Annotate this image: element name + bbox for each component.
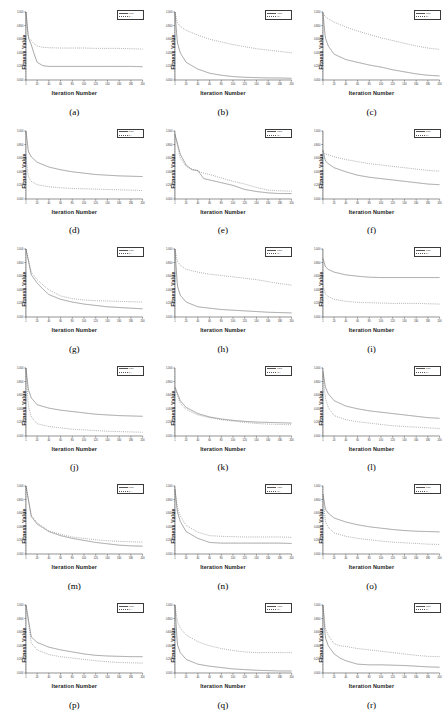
- legend: PSOGA: [414, 129, 441, 139]
- svg-text:60: 60: [356, 675, 359, 679]
- legend: PSOGA: [117, 366, 144, 376]
- x-axis-label: Iteration Number: [0, 446, 149, 452]
- svg-text:20: 20: [36, 437, 39, 441]
- legend-swatch-dotted-icon: [416, 135, 425, 136]
- subplot-caption: (g): [0, 344, 149, 354]
- svg-text:120: 120: [242, 319, 247, 323]
- svg-text:1.000: 1.000: [17, 603, 24, 607]
- svg-text:40: 40: [196, 319, 199, 323]
- plot-area: 0.0000.2000.4000.6000.8001.0001204060801…: [297, 362, 446, 454]
- legend-label: PSO: [277, 367, 282, 370]
- svg-text:1: 1: [25, 200, 27, 204]
- subplot-caption: (o): [297, 581, 446, 591]
- subplot-l: 0.0000.2000.4000.6000.8001.0001204060801…: [297, 356, 446, 475]
- svg-text:60: 60: [208, 82, 211, 86]
- x-axis-label: Iteration Number: [149, 209, 298, 215]
- series-line-PSO: [175, 387, 292, 423]
- svg-text:40: 40: [345, 319, 348, 323]
- plot-area: 0.0000.2000.4000.6000.8001.0001204060801…: [149, 362, 298, 454]
- svg-text:180: 180: [129, 82, 134, 86]
- subplot-k: 0.0000.2000.4000.6000.8001.0001204060801…: [149, 356, 298, 475]
- svg-text:180: 180: [129, 200, 134, 204]
- x-axis-label: Iteration Number: [297, 564, 446, 570]
- svg-text:1.000: 1.000: [166, 247, 173, 251]
- svg-text:180: 180: [426, 675, 431, 679]
- y-axis-label: Fitness Value: [21, 627, 27, 662]
- legend: PSOGA: [265, 484, 292, 494]
- svg-text:200: 200: [140, 200, 145, 204]
- subplot-caption: (n): [149, 581, 298, 591]
- svg-text:0.000: 0.000: [17, 78, 24, 82]
- svg-text:80: 80: [71, 675, 74, 679]
- subplot-c: 0.0000.2000.4000.6000.8001.0001204060801…: [297, 0, 446, 119]
- subplot-n: 0.0000.2000.4000.6000.8001.0001204060801…: [149, 474, 298, 593]
- svg-text:40: 40: [196, 675, 199, 679]
- svg-text:160: 160: [414, 675, 419, 679]
- legend-item-GA: GA: [416, 134, 439, 137]
- svg-text:0.000: 0.000: [166, 78, 173, 82]
- svg-text:140: 140: [105, 437, 110, 441]
- svg-text:140: 140: [402, 556, 407, 560]
- legend-label: PSO: [277, 12, 282, 15]
- svg-text:80: 80: [368, 556, 371, 560]
- svg-text:40: 40: [47, 200, 50, 204]
- legend-label: PSO: [129, 367, 134, 370]
- svg-text:200: 200: [438, 319, 443, 323]
- svg-text:0.000: 0.000: [314, 78, 321, 82]
- svg-text:200: 200: [438, 82, 443, 86]
- plot-area: 0.0000.2000.4000.6000.8001.0001204060801…: [0, 6, 149, 98]
- svg-text:0.800: 0.800: [17, 617, 24, 621]
- svg-text:80: 80: [368, 437, 371, 441]
- svg-text:0.000: 0.000: [17, 671, 24, 675]
- svg-text:0.800: 0.800: [166, 379, 173, 383]
- series-line-PSO: [26, 12, 143, 67]
- plot-area: 0.0000.2000.4000.6000.8001.0001204060801…: [0, 480, 149, 572]
- plot-area: 0.0000.2000.4000.6000.8001.0001204060801…: [149, 243, 298, 335]
- plot-area: 0.0000.2000.4000.6000.8001.0001204060801…: [149, 125, 298, 217]
- svg-text:100: 100: [230, 556, 235, 560]
- subplot-caption: (e): [149, 225, 298, 235]
- legend: PSOGA: [265, 366, 292, 376]
- y-axis-label: Fitness Value: [318, 272, 324, 307]
- legend-swatch-solid-icon: [119, 606, 128, 607]
- legend: PSOGA: [117, 247, 144, 257]
- legend: PSOGA: [265, 247, 292, 257]
- series-line-PSO: [323, 259, 440, 278]
- subplot-f: 0.0000.2000.4000.6000.8001.0001204060801…: [297, 119, 446, 238]
- legend-label: PSO: [426, 249, 431, 252]
- svg-text:60: 60: [356, 437, 359, 441]
- svg-text:120: 120: [94, 319, 99, 323]
- svg-text:0.000: 0.000: [166, 197, 173, 201]
- svg-text:20: 20: [36, 556, 39, 560]
- svg-text:100: 100: [379, 556, 384, 560]
- series-line-PSO: [323, 605, 440, 667]
- svg-text:1: 1: [322, 675, 324, 679]
- svg-text:0.000: 0.000: [166, 671, 173, 675]
- legend-swatch-solid-icon: [267, 13, 276, 14]
- legend: PSOGA: [117, 603, 144, 613]
- svg-text:1: 1: [322, 437, 324, 441]
- svg-text:60: 60: [208, 319, 211, 323]
- svg-text:0.800: 0.800: [17, 142, 24, 146]
- x-axis-label: Iteration Number: [149, 683, 298, 689]
- svg-text:160: 160: [117, 675, 122, 679]
- legend-item-GA: GA: [119, 15, 142, 18]
- svg-text:0.800: 0.800: [166, 142, 173, 146]
- svg-text:120: 120: [242, 82, 247, 86]
- plot-area: 0.0000.2000.4000.6000.8001.0001204060801…: [297, 599, 446, 691]
- subplot-caption: (d): [0, 225, 149, 235]
- svg-text:1: 1: [322, 556, 324, 560]
- legend-item-GA: GA: [119, 490, 142, 493]
- svg-text:120: 120: [94, 82, 99, 86]
- svg-text:100: 100: [379, 675, 384, 679]
- svg-text:120: 120: [391, 82, 396, 86]
- svg-text:140: 140: [254, 437, 259, 441]
- svg-text:20: 20: [333, 675, 336, 679]
- svg-text:60: 60: [356, 319, 359, 323]
- series-line-PSO: [323, 371, 440, 418]
- svg-text:140: 140: [105, 675, 110, 679]
- legend-item-GA: GA: [416, 608, 439, 611]
- legend-label: PSO: [277, 130, 282, 133]
- x-axis-label: Iteration Number: [297, 327, 446, 333]
- svg-text:60: 60: [59, 200, 62, 204]
